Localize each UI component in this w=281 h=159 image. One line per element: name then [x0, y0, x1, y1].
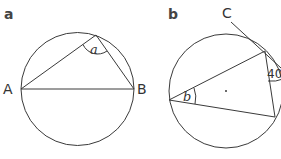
center-dot: [225, 90, 227, 92]
point-c-label: C: [222, 5, 232, 21]
panel-b-label: b: [168, 6, 178, 22]
angle-b-label: b: [183, 89, 191, 104]
tangent-line: [231, 22, 281, 68]
point-b-label: B: [137, 81, 147, 97]
angle-arc-b: [194, 88, 196, 104]
chord-top-b: [96, 35, 134, 89]
panel-a-label: a: [4, 6, 13, 22]
panel-b: b b 40 C: [168, 5, 281, 148]
angle-40-label: 40: [267, 67, 281, 81]
circle-theorem-diagram: a a A B b b 40 C: [0, 0, 281, 159]
chord-a-top: [21, 35, 96, 89]
point-a-label: A: [3, 81, 13, 97]
angle-a-label: a: [90, 42, 98, 57]
panel-a: a a A B: [3, 6, 147, 146]
